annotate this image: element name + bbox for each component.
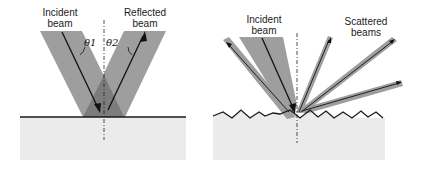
scattered-beams-label: Scattered beams [336, 16, 396, 38]
reflected-beam-label: Reflected beam [120, 7, 170, 29]
incident-beam-band [239, 37, 297, 118]
theta1-label: θ1 [84, 37, 96, 48]
theta2-label: θ2 [106, 37, 118, 48]
diffuse-scattering-panel [213, 33, 403, 160]
incident-beam-label-right: Incident beam [242, 14, 286, 36]
specular-reflection-panel [20, 20, 186, 160]
smooth-substrate [20, 117, 186, 160]
incident-beam-label-left: Incident beam [40, 7, 80, 29]
